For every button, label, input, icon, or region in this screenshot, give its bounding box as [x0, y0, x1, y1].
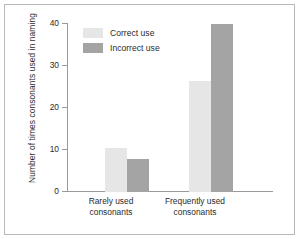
legend-swatch-incorrect-use — [83, 43, 103, 53]
y-axis-label: Number of times consonants used in namin… — [27, 13, 37, 183]
y-tick-label-30: 30 — [50, 60, 62, 70]
legend-label-incorrect-use: Incorrect use — [110, 43, 160, 53]
y-tick-20: 20 — [62, 107, 67, 108]
bar-rarely-incorrect[interactable] — [127, 159, 149, 192]
x-tick-label-frequently-line2: consonants — [142, 207, 248, 218]
bar-frequently-incorrect[interactable] — [211, 24, 233, 192]
y-tick-0: 0 — [62, 191, 67, 192]
y-tick-label-20: 20 — [50, 102, 62, 112]
bar-frequently-correct[interactable] — [189, 81, 211, 192]
y-tick-label-10: 10 — [50, 144, 62, 154]
y-tick-40: 40 — [62, 23, 67, 24]
legend-item-incorrect-use[interactable]: Incorrect use — [83, 41, 160, 54]
legend-swatch-correct-use — [83, 28, 103, 38]
y-tick-30: 30 — [62, 65, 67, 66]
legend: Correct use Incorrect use — [83, 26, 160, 56]
x-tick-label-frequently-line1: Frequently used — [142, 196, 248, 207]
figure-frame: Number of times consonants used in namin… — [4, 4, 295, 235]
bar-chart: Number of times consonants used in namin… — [5, 5, 296, 236]
y-tick-label-0: 0 — [54, 186, 62, 196]
bar-group-frequently-used — [189, 23, 233, 192]
y-tick-label-40: 40 — [50, 18, 62, 28]
x-tick-label-frequently-used: Frequently used consonants — [142, 196, 248, 217]
y-tick-10: 10 — [62, 149, 67, 150]
bar-rarely-correct[interactable] — [105, 148, 127, 192]
legend-label-correct-use: Correct use — [110, 28, 154, 38]
legend-item-correct-use[interactable]: Correct use — [83, 26, 160, 39]
